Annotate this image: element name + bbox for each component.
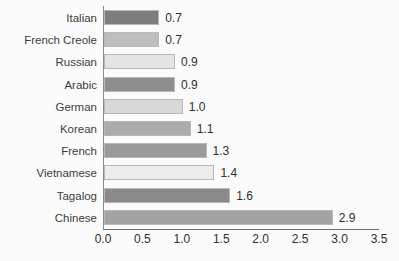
bar-row: Korean1.1: [0, 118, 399, 140]
x-tick-label: 1.0: [162, 232, 202, 246]
bar-value-label: 1.4: [220, 162, 237, 184]
category-label: German: [0, 96, 97, 118]
x-tick-label: 2.0: [241, 232, 281, 246]
bar-chart: Italian0.7French Creole0.7Russian0.9Arab…: [0, 0, 399, 261]
bar: [104, 121, 191, 136]
bar: [104, 165, 214, 180]
bar: [104, 188, 230, 203]
bar-row: Vietnamese1.4: [0, 162, 399, 184]
bar: [104, 210, 333, 225]
bar-value-label: 0.7: [165, 29, 182, 51]
bar: [104, 10, 159, 25]
category-label: Italian: [0, 7, 97, 29]
bar-value-label: 1.3: [213, 140, 230, 162]
bar-row: German1.0: [0, 96, 399, 118]
category-label: Tagalog: [0, 185, 97, 207]
x-tick-label: 0.5: [122, 232, 162, 246]
bar: [104, 143, 207, 158]
bar-value-label: 1.6: [236, 185, 253, 207]
bar-value-label: 0.9: [181, 74, 198, 96]
bar-row: Arabic0.9: [0, 74, 399, 96]
x-axis-spine: [103, 229, 379, 230]
bar-value-label: 0.7: [165, 7, 182, 29]
bar-value-label: 1.0: [189, 96, 206, 118]
category-label: Russian: [0, 51, 97, 73]
category-label: Korean: [0, 118, 97, 140]
bar: [104, 54, 175, 69]
category-label: French: [0, 140, 97, 162]
x-tick-label: 2.5: [280, 232, 320, 246]
x-tick-label: 3.0: [320, 232, 360, 246]
category-label: French Creole: [0, 29, 97, 51]
bar-row: French1.3: [0, 140, 399, 162]
bar-value-label: 1.1: [197, 118, 214, 140]
bar-row: Italian0.7: [0, 7, 399, 29]
x-tick-label: 1.5: [201, 232, 241, 246]
bar: [104, 32, 159, 47]
category-label: Chinese: [0, 207, 97, 229]
bar-row: Tagalog1.6: [0, 185, 399, 207]
bar-row: French Creole0.7: [0, 29, 399, 51]
bar: [104, 77, 175, 92]
category-label: Arabic: [0, 74, 97, 96]
bar-value-label: 2.9: [339, 207, 356, 229]
bar: [104, 99, 183, 114]
category-label: Vietnamese: [0, 162, 97, 184]
x-tick-label: 3.5: [359, 232, 399, 246]
bar-value-label: 0.9: [181, 51, 198, 73]
bar-row: Chinese2.9: [0, 207, 399, 229]
bar-row: Russian0.9: [0, 51, 399, 73]
x-tick-label: 0.0: [83, 232, 123, 246]
